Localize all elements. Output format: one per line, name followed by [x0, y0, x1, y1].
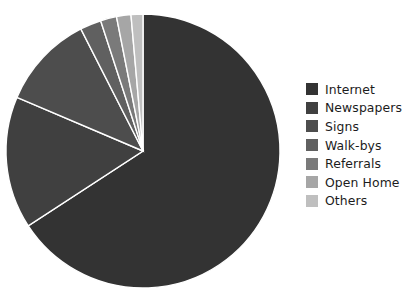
legend-item-label: Referrals	[325, 157, 381, 170]
legend-item-label: Walk-bys	[325, 139, 382, 152]
legend-item[interactable]: Internet	[306, 80, 375, 99]
legend-color-swatch	[306, 158, 318, 170]
legend-color-swatch	[306, 176, 318, 188]
legend-item[interactable]: Referrals	[306, 154, 381, 173]
chart-legend: InternetNewspapersSignsWalk-bysReferrals…	[306, 80, 410, 210]
legend-item[interactable]: Newspapers	[306, 99, 402, 118]
legend-item-label: Open Home	[325, 176, 400, 189]
pie-slice-group	[6, 14, 280, 288]
legend-item[interactable]: Open Home	[306, 173, 400, 192]
legend-item[interactable]: Signs	[306, 117, 359, 136]
pie-chart-figure: InternetNewspapersSignsWalk-bysReferrals…	[0, 0, 413, 299]
legend-item[interactable]: Walk-bys	[306, 136, 382, 155]
legend-color-swatch	[306, 102, 318, 114]
legend-color-swatch	[306, 120, 318, 132]
legend-item-label: Others	[325, 194, 367, 207]
legend-item-label: Internet	[325, 83, 375, 96]
legend-item-label: Newspapers	[325, 101, 402, 114]
legend-item-label: Signs	[325, 120, 359, 133]
legend-color-swatch	[306, 83, 318, 95]
legend-color-swatch	[306, 139, 318, 151]
legend-item[interactable]: Others	[306, 192, 367, 211]
legend-color-swatch	[306, 195, 318, 207]
